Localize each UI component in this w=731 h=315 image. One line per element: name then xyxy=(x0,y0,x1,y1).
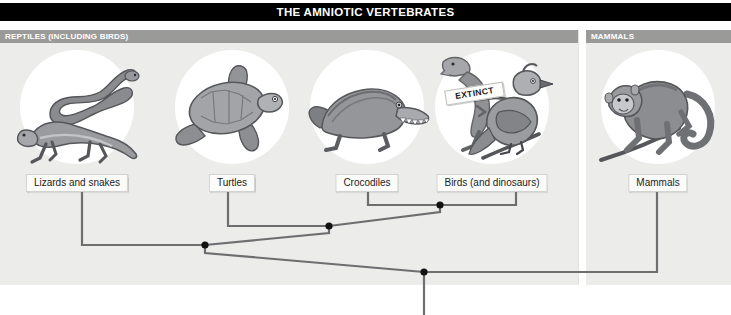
page-title: THE AMNIOTIC VERTEBRATES xyxy=(277,6,455,18)
group-header-label-mammals: MAMMALS xyxy=(591,32,634,41)
taxon-label-mammals: Mammals xyxy=(628,174,687,192)
group-header-reptiles: REPTILES (INCLUDING BIRDS) xyxy=(0,30,578,43)
diagram-title-bar: THE AMNIOTIC VERTEBRATES xyxy=(0,3,731,21)
sea-turtle-illustration xyxy=(167,50,297,170)
taxon-label-lizards-and-snakes: Lizards and snakes xyxy=(26,174,128,192)
amniote-vertebrates-diagram: THE AMNIOTIC VERTEBRATES REPTILES (INCLU… xyxy=(0,0,731,315)
taxon-label-turtles: Turtles xyxy=(209,174,255,192)
crocodile-illustration xyxy=(302,50,432,170)
group-header-label-reptiles: REPTILES (INCLUDING BIRDS) xyxy=(5,32,128,41)
bird-and-dinosaur-illustration xyxy=(427,50,557,170)
monkey-illustration xyxy=(593,50,723,170)
taxon-label-crocodiles: Crocodiles xyxy=(335,174,398,192)
taxon-label-birds: Birds (and dinosaurs) xyxy=(436,174,547,192)
lizard-and-snake-illustration xyxy=(12,50,142,170)
group-header-mammals: MAMMALS xyxy=(586,30,731,43)
